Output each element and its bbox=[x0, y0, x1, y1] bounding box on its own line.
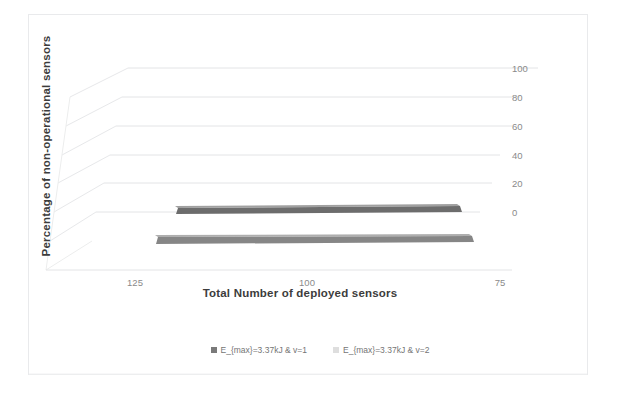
y-tick-label-60: 60 bbox=[512, 121, 523, 132]
chart-outer-frame bbox=[28, 14, 588, 375]
y-tick-label-0: 0 bbox=[512, 207, 517, 218]
y-tick-label-100: 100 bbox=[512, 63, 528, 74]
y-axis-title: Percentage of non-operational sensors bbox=[40, 16, 52, 276]
x-axis-title: Total Number of deployed sensors bbox=[120, 287, 480, 299]
legend-label-v2: E_{max}=3.37kJ & v=2 bbox=[343, 346, 429, 355]
legend-item-v2[interactable]: E_{max}=3.37kJ & v=2 bbox=[333, 346, 429, 355]
chart-legend: E_{max}=3.37kJ & v=1 E_{max}=3.37kJ & v=… bbox=[185, 346, 455, 355]
y-tick-label-40: 40 bbox=[512, 150, 523, 161]
y-tick-label-20: 20 bbox=[512, 178, 523, 189]
legend-label-v1: E_{max}=3.37kJ & v=1 bbox=[221, 346, 307, 355]
series-band-v1[interactable] bbox=[170, 203, 470, 217]
legend-swatch-icon bbox=[333, 347, 339, 353]
legend-swatch-icon bbox=[211, 347, 217, 353]
series-band-v2[interactable] bbox=[150, 232, 480, 246]
x-tick-label-75: 75 bbox=[480, 277, 520, 288]
y-tick-label-80: 80 bbox=[512, 92, 523, 103]
legend-item-v1[interactable]: E_{max}=3.37kJ & v=1 bbox=[211, 346, 307, 355]
